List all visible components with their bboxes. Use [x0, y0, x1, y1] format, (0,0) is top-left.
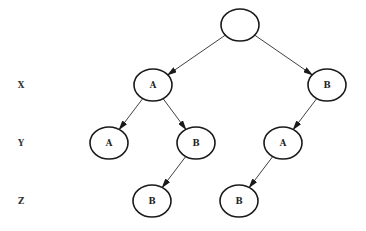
tree-node-zB1: B [133, 185, 171, 217]
tree-node-zB2: B [220, 185, 258, 217]
node-label: A [279, 138, 287, 148]
row-label-z: Z [18, 196, 24, 206]
node-label: A [149, 80, 157, 90]
tree-node-root [221, 9, 259, 41]
edge-arrow-xA-to-yA1 [119, 98, 143, 129]
edge-arrow-root-to-xA [168, 35, 226, 75]
node-label: A [105, 138, 113, 148]
tree-node-yB: B [177, 127, 215, 159]
edge-arrow-xB-to-yA2 [293, 98, 317, 129]
tree-node-xA: A [134, 69, 172, 101]
node-label: B [192, 138, 199, 148]
row-label-x: X [18, 80, 25, 90]
node-label: B [323, 80, 330, 90]
tree-node-yA1: A [90, 127, 128, 159]
tree-node-yA2: A [264, 127, 302, 159]
edge-arrow-xA-to-yB [163, 99, 186, 130]
edge-arrow-yB-to-zB1 [162, 156, 186, 187]
edge-arrow-root-to-xB [255, 35, 313, 75]
tree-diagram: ABABABB XYZ [0, 0, 366, 231]
node-ellipse [221, 9, 259, 41]
row-labels: XYZ [17, 80, 25, 206]
tree-node-xB: B [308, 69, 346, 101]
node-label: B [148, 196, 155, 206]
edges [119, 35, 317, 187]
row-label-y: Y [17, 138, 25, 148]
edge-arrow-yA2-to-zB2 [249, 156, 273, 187]
node-label: B [235, 196, 242, 206]
